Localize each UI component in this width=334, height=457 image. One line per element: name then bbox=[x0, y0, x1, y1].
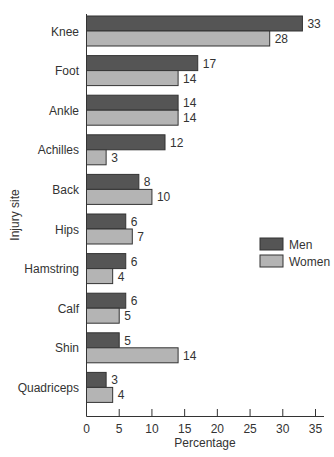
category-label-foot: Foot bbox=[55, 64, 80, 78]
value-label: 6 bbox=[131, 255, 138, 269]
bar-achilles-men bbox=[87, 135, 166, 150]
value-label: 33 bbox=[307, 17, 321, 31]
value-label: 5 bbox=[124, 309, 131, 323]
legend-swatch-women bbox=[260, 255, 283, 267]
value-label: 14 bbox=[183, 96, 197, 110]
value-label: 3 bbox=[111, 373, 118, 387]
value-label: 14 bbox=[183, 111, 197, 125]
category-label-hamstring: Hamstring bbox=[24, 262, 79, 276]
category-label-ankle: Ankle bbox=[49, 104, 79, 118]
category-label-calf: Calf bbox=[58, 302, 80, 316]
bar-calf-men bbox=[87, 293, 126, 308]
value-label: 8 bbox=[144, 175, 151, 189]
bar-shin-men bbox=[87, 333, 120, 348]
bar-hips-men bbox=[87, 214, 126, 229]
x-tick-label: 35 bbox=[309, 422, 323, 436]
legend-label-women: Women bbox=[289, 255, 330, 269]
bar-back-men bbox=[87, 174, 139, 189]
value-label: 4 bbox=[118, 388, 125, 402]
bar-chart: 33281714141412381067646551434 KneeFootAn… bbox=[0, 0, 334, 457]
x-tick-label: 15 bbox=[178, 422, 192, 436]
value-label: 10 bbox=[157, 190, 171, 204]
legend-label-men: Men bbox=[289, 238, 312, 252]
bar-shin-women bbox=[87, 348, 179, 363]
bar-quadriceps-men bbox=[87, 372, 107, 387]
value-label: 28 bbox=[275, 32, 289, 46]
legend: MenWomen bbox=[260, 238, 330, 269]
value-label: 6 bbox=[131, 215, 138, 229]
value-label: 5 bbox=[124, 334, 131, 348]
category-labels: KneeFootAnkleAchillesBackHipsHamstringCa… bbox=[18, 25, 80, 395]
bars-group: 33281714141412381067646551434 bbox=[87, 16, 322, 402]
x-tick-label: 20 bbox=[211, 422, 225, 436]
bar-back-women bbox=[87, 189, 152, 204]
category-label-achilles: Achilles bbox=[38, 143, 79, 157]
x-tick-label: 10 bbox=[145, 422, 159, 436]
value-label: 17 bbox=[203, 57, 217, 71]
value-label: 14 bbox=[183, 72, 197, 86]
bar-quadriceps-women bbox=[87, 387, 113, 402]
value-label: 4 bbox=[118, 270, 125, 284]
bar-hips-women bbox=[87, 229, 133, 244]
bar-calf-women bbox=[87, 308, 120, 323]
bar-ankle-men bbox=[87, 95, 179, 110]
value-label: 14 bbox=[183, 349, 197, 363]
bar-ankle-women bbox=[87, 110, 179, 125]
category-label-back: Back bbox=[52, 183, 80, 197]
value-label: 12 bbox=[170, 136, 184, 150]
bar-hamstring-women bbox=[87, 269, 113, 284]
bar-knee-men bbox=[87, 16, 303, 31]
x-tick-label: 30 bbox=[276, 422, 290, 436]
x-tick-label: 0 bbox=[83, 422, 90, 436]
bar-achilles-women bbox=[87, 150, 107, 165]
category-label-hips: Hips bbox=[55, 223, 79, 237]
bar-hamstring-men bbox=[87, 254, 126, 269]
y-axis-title: Injury site bbox=[8, 189, 22, 241]
x-tick-label: 25 bbox=[243, 422, 257, 436]
x-axis-title: Percentage bbox=[174, 436, 236, 450]
bar-knee-women bbox=[87, 31, 270, 46]
category-label-quadriceps: Quadriceps bbox=[18, 381, 79, 395]
value-label: 7 bbox=[137, 230, 144, 244]
x-tick-label: 5 bbox=[116, 422, 123, 436]
bar-foot-women bbox=[87, 71, 179, 86]
bar-foot-men bbox=[87, 56, 198, 71]
value-label: 3 bbox=[111, 151, 118, 165]
category-label-knee: Knee bbox=[51, 25, 79, 39]
legend-swatch-men bbox=[260, 238, 283, 250]
value-label: 6 bbox=[131, 294, 138, 308]
category-label-shin: Shin bbox=[55, 341, 79, 355]
